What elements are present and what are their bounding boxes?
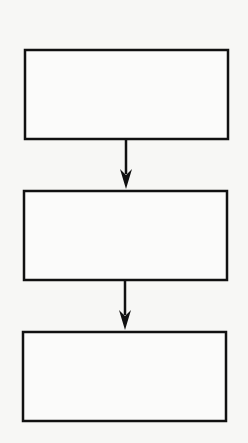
box-outline [24, 191, 227, 280]
box-outline [25, 50, 228, 139]
flowchart-nodes [23, 50, 228, 421]
flowchart-box-1 [25, 50, 228, 139]
box-outline [23, 332, 226, 421]
flowchart-box-3 [23, 332, 226, 421]
flowchart-box-2 [24, 191, 227, 280]
flowchart-diagram [0, 0, 248, 443]
